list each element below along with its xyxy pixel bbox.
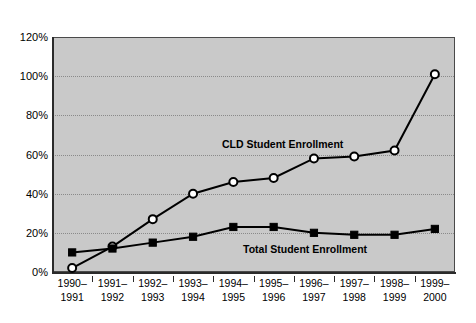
- x-tick-label: 1999–2000: [415, 276, 455, 304]
- x-tick-label-line: 1991–: [92, 276, 132, 290]
- x-tick-label: 1992–1993: [133, 276, 173, 304]
- x-tick-label-line: 1992: [92, 290, 132, 304]
- gridline: [53, 194, 454, 195]
- x-tick-label-line: 1994–: [213, 276, 253, 290]
- x-tick-label-line: 1999: [374, 290, 414, 304]
- x-tick-label-line: 1998–: [374, 276, 414, 290]
- y-axis-line: [52, 37, 54, 273]
- x-tick-label-line: 1997: [294, 290, 334, 304]
- gridline: [53, 155, 454, 156]
- x-axis-tick: [173, 276, 174, 282]
- series-label-cld-student-enrollment: CLD Student Enrollment: [222, 138, 343, 150]
- x-tick-label: 1997–1998: [334, 276, 374, 304]
- x-tick-label-line: 1995–: [254, 276, 294, 290]
- x-axis-tick: [334, 276, 335, 282]
- x-tick-label-line: 1999–: [415, 276, 455, 290]
- x-tick-label: 1991–1992: [92, 276, 132, 304]
- y-tick-label: 100%: [2, 71, 48, 82]
- plot-area: [52, 37, 455, 272]
- x-tick-label: 1993–1994: [173, 276, 213, 304]
- x-tick-label-line: 1995: [213, 290, 253, 304]
- x-tick-label: 1995–1996: [254, 276, 294, 304]
- x-tick-label-line: 1994: [173, 290, 213, 304]
- x-axis-tick-labels: 1990–19911991–19921992–19931993–19941994…: [52, 276, 456, 320]
- x-axis-tick: [133, 276, 134, 282]
- gridline: [53, 76, 454, 77]
- x-axis-tick: [92, 276, 93, 282]
- gridline: [53, 115, 454, 116]
- x-tick-label-line: 1993–: [173, 276, 213, 290]
- x-tick-label-line: 1990–: [52, 276, 92, 290]
- x-tick-label-line: 1992–: [133, 276, 173, 290]
- x-tick-label: 1996–1997: [294, 276, 334, 304]
- x-axis-tick: [415, 276, 416, 282]
- x-tick-label-line: 1998: [334, 290, 374, 304]
- x-tick-label-line: 1996: [254, 290, 294, 304]
- y-tick-label: 80%: [2, 110, 48, 121]
- x-tick-label-line: 2000: [415, 290, 455, 304]
- x-tick-label: 1990–1991: [52, 276, 92, 304]
- series-label-total-student-enrollment: Total Student Enrollment: [243, 243, 367, 255]
- x-tick-label-line: 1993: [133, 290, 173, 304]
- x-tick-label: 1994–1995: [213, 276, 253, 304]
- x-tick-label: 1998–1999: [374, 276, 414, 304]
- x-axis-tick: [374, 276, 375, 282]
- line-chart: 0%20%40%60%80%100%120% 1990–19911991–199…: [0, 0, 476, 323]
- y-axis-tick-labels: 0%20%40%60%80%100%120%: [0, 0, 48, 323]
- x-axis-tick: [294, 276, 295, 282]
- x-tick-label-line: 1996–: [294, 276, 334, 290]
- y-tick-label: 40%: [2, 189, 48, 200]
- x-tick-label-line: 1991: [52, 290, 92, 304]
- x-tick-label-line: 1997–: [334, 276, 374, 290]
- y-tick-label: 20%: [2, 228, 48, 239]
- x-axis-tick: [254, 276, 255, 282]
- gridline: [53, 233, 454, 234]
- x-axis-tick: [213, 276, 214, 282]
- y-tick-label: 120%: [2, 32, 48, 43]
- x-axis-line: [52, 272, 456, 274]
- y-tick-label: 60%: [2, 150, 48, 161]
- y-tick-label: 0%: [2, 267, 48, 278]
